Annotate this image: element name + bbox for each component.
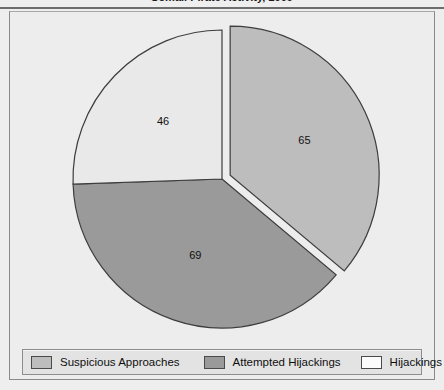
legend-label-hijackings: Hijackings	[390, 356, 442, 368]
pie-label-suspicious-approaches: 65	[298, 134, 310, 146]
pie-slice-hijackings[interactable]	[73, 30, 222, 184]
legend-swatch-icon-hijackings	[361, 356, 382, 369]
legend-item-attempted-hijackings[interactable]: Attempted Hijackings	[204, 356, 341, 369]
legend-swatch-icon-attempted-hijackings	[204, 356, 225, 369]
pie-chart-svg: 65 69 46	[9, 11, 435, 341]
title-underline	[0, 7, 444, 9]
chart-page: Somali Pirate Activity, 2009 65 69 46 Su…	[0, 0, 444, 390]
chart-title: Somali Pirate Activity, 2009	[0, 0, 444, 5]
pie-label-attempted-hijackings: 69	[189, 249, 201, 261]
legend-swatch-icon-suspicious-approaches	[31, 356, 52, 369]
chart-legend: Suspicious Approaches Attempted Hijackin…	[22, 349, 422, 375]
pie-chart-area: 65 69 46	[9, 11, 435, 341]
legend-label-suspicious-approaches: Suspicious Approaches	[60, 356, 180, 368]
legend-item-suspicious-approaches[interactable]: Suspicious Approaches	[31, 356, 180, 369]
legend-label-attempted-hijackings: Attempted Hijackings	[233, 356, 341, 368]
legend-item-hijackings[interactable]: Hijackings	[361, 356, 442, 369]
pie-label-hijackings: 46	[157, 115, 169, 127]
